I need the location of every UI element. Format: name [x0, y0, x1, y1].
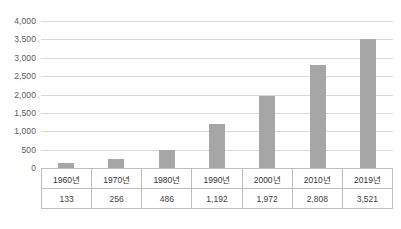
bar-slot	[91, 21, 141, 168]
y-axis-tick-label: 4,000	[2, 16, 36, 26]
table-row-categories: 1960년 1970년 1980년 1990년 2000년 2010년 2019…	[42, 169, 393, 189]
data-table: 1960년 1970년 1980년 1990년 2000년 2010년 2019…	[41, 168, 393, 209]
y-axis-tick-label: 2,000	[2, 90, 36, 100]
bar-slot	[292, 21, 342, 168]
bar-2010	[310, 65, 326, 168]
bar-slot	[343, 21, 393, 168]
bar-1970	[108, 159, 124, 168]
bar-2000	[259, 96, 275, 168]
table-cell-value: 1,192	[192, 189, 242, 209]
bar-series	[41, 21, 393, 168]
table-cell-value: 133	[42, 189, 92, 209]
figure-caption	[0, 220, 401, 229]
y-axis-tick-label: 500	[2, 145, 36, 155]
table-cell-category: 1960년	[42, 169, 92, 189]
table-cell-category: 2010년	[292, 169, 342, 189]
bar-1990	[209, 124, 225, 168]
table-cell-category: 1970년	[92, 169, 142, 189]
y-axis-tick-label: 1,500	[2, 108, 36, 118]
y-axis-tick-label: 3,000	[2, 53, 36, 63]
table-cell-category: 2000년	[242, 169, 292, 189]
bar-slot	[242, 21, 292, 168]
table-cell-value: 2,808	[292, 189, 342, 209]
table-row-values: 133 256 486 1,192 1,972 2,808 3,521	[42, 189, 393, 209]
bar-2019	[360, 39, 376, 168]
y-axis-tick-label: 1,000	[2, 126, 36, 136]
table-cell-value: 3,521	[342, 189, 392, 209]
table-cell-value: 1,972	[242, 189, 292, 209]
bar-slot	[192, 21, 242, 168]
y-axis-tick-label: 0	[2, 163, 36, 173]
bar-1980	[159, 150, 175, 168]
table-cell-value: 256	[92, 189, 142, 209]
table-cell-category: 2019년	[342, 169, 392, 189]
y-axis-tick-label: 2,500	[2, 71, 36, 81]
table-cell-category: 1990년	[192, 169, 242, 189]
bar-chart-figure: 4,000 3,500 3,000 2,500 2,000 1,500 1,00…	[0, 0, 401, 229]
bar-slot	[142, 21, 192, 168]
table-cell-category: 1980년	[142, 169, 192, 189]
y-axis-tick-label: 3,500	[2, 34, 36, 44]
bar-slot	[41, 21, 91, 168]
table-cell-value: 486	[142, 189, 192, 209]
